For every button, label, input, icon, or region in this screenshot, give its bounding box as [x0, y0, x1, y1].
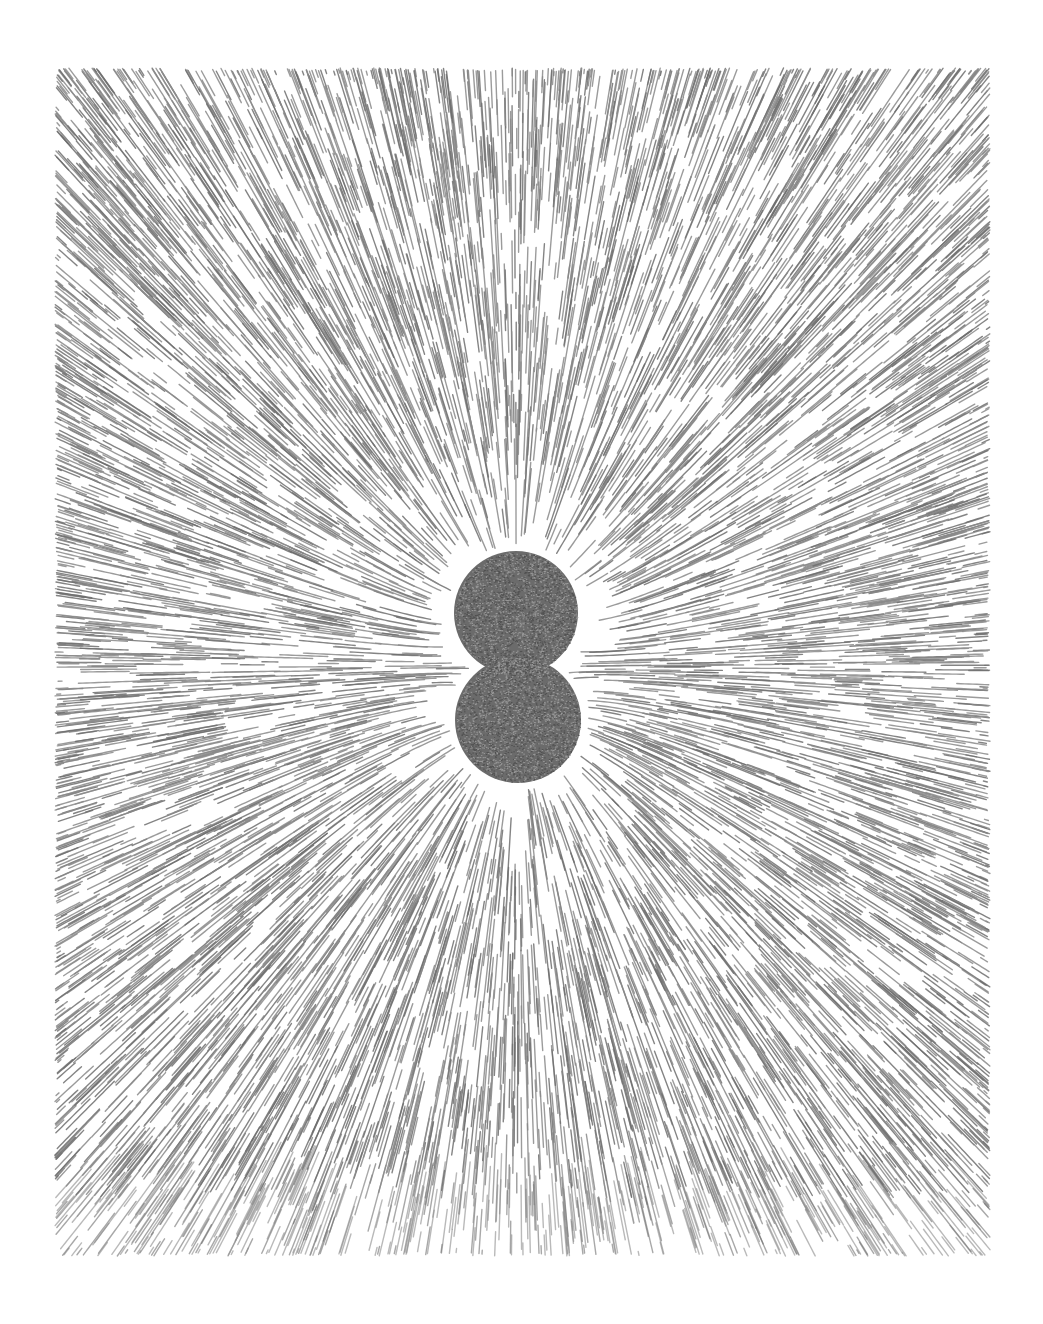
field-lines-canvas: [0, 0, 1043, 1324]
field-line-figure: Field-line pattern around two like charg…: [0, 0, 1043, 1324]
